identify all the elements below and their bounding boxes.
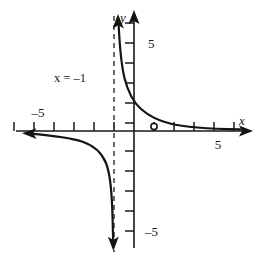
- left-branch-curve: [22, 128, 119, 251]
- x-tick-label-positive-five: 5: [215, 137, 222, 152]
- y-tick-label-negative-five: –5: [144, 224, 158, 239]
- x-axis-ticks: [14, 122, 234, 131]
- x-axis-label: x: [238, 113, 245, 128]
- y-axis-label: y: [118, 10, 126, 25]
- graph-figure: x y –5 5 5 –5 x = –1: [0, 0, 263, 263]
- x-tick-label-negative-five: –5: [31, 105, 45, 120]
- open-circle-hole-marker: [151, 123, 157, 129]
- y-axis-ticks: [125, 23, 134, 231]
- function-graph-canvas: x y –5 5 5 –5 x = –1: [0, 0, 263, 263]
- y-tick-label-positive-five: 5: [148, 36, 155, 51]
- right-branch-curve: [113, 14, 240, 129]
- asymptote-equation-label: x = –1: [54, 71, 86, 85]
